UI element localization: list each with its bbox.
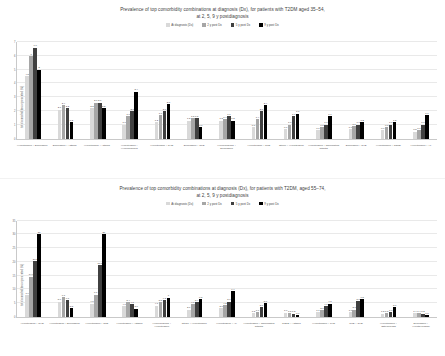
bar-value-label: 0.6 <box>316 127 319 130</box>
bar[interactable]: 0.8 <box>199 127 203 138</box>
bar[interactable]: 3.4 <box>134 92 138 139</box>
legend-item-5y-bottom[interactable]: 5 y post Dx <box>231 202 250 206</box>
bar-value-label: 2.7 <box>187 306 190 309</box>
legend-item-dx[interactable]: At diagnosis (Dx) <box>166 23 193 27</box>
x-axis-label: Hypertension + Depression <box>16 142 48 174</box>
bar-value-label: 2.6 <box>98 99 101 102</box>
legend-item-9y-bottom[interactable]: 9 y post Dx <box>259 202 278 206</box>
legend-item-2y-bottom[interactable]: 2 y post Dx <box>202 202 221 206</box>
x-axis-label: Hypertension + Asthma <box>81 142 113 174</box>
x-axis-label: Hypertension + PVD <box>308 320 340 352</box>
bar-value-label: 5 <box>38 66 39 69</box>
bar[interactable]: 4.8 <box>328 304 332 317</box>
bar-value-label: 2.2 <box>66 105 69 108</box>
x-axis-label: Depression + CKD <box>178 142 210 174</box>
bar[interactable]: 1.7 <box>425 115 429 138</box>
bar-value-label: 1.2 <box>361 119 364 122</box>
chart-panel-top: Prevalence of top comorbidity combinatio… <box>0 0 445 178</box>
bar[interactable]: 6.5 <box>360 299 364 317</box>
bar[interactable]: 2.5 <box>167 104 171 138</box>
bar[interactable]: 3.7 <box>393 307 397 317</box>
bar-group: 1.41.41.20.8 <box>405 221 437 318</box>
bar-group: 4.566.65 <box>17 42 49 139</box>
bar-group: 1.21.72.02.5 <box>146 42 178 139</box>
bar[interactable]: 3.0 <box>134 309 138 317</box>
x-axis-label: Hypertension + COPD <box>372 142 404 174</box>
bar[interactable]: 1.8 <box>296 114 300 139</box>
bar-value-label: 1.2 <box>381 310 384 313</box>
x-axis-labels-bottom: Hypertension + CHDHypertension + Depress… <box>16 320 437 352</box>
bar-group: 1.72.75.86.5 <box>340 221 372 318</box>
bar[interactable]: 5 <box>37 70 41 139</box>
bar[interactable]: 1.6 <box>328 116 332 138</box>
x-axis-label: CKD + CHD <box>340 320 372 352</box>
x-axis-label: Hypertension + Hyperlipidemia <box>113 142 145 174</box>
bar[interactable]: 1.3 <box>231 121 235 139</box>
bar-value-label: 3.0 <box>134 305 137 308</box>
legend-item-dx-bottom[interactable]: At diagnosis (Dx) <box>166 202 193 206</box>
x-axis-label: Hypertension + CHD <box>16 320 48 352</box>
bar-group: 2.12.42.21.2 <box>49 42 81 139</box>
bar[interactable]: 2.2 <box>102 108 106 138</box>
y-axis-tick: 15 <box>13 274 16 277</box>
plot-area-top: 012345674.566.652.12.42.21.22.22.62.62.2… <box>16 42 437 140</box>
x-axis-label: Hypertension + Rheumatoid arthritis <box>243 320 275 352</box>
bar-value-label: 1.7 <box>349 309 352 312</box>
chart-title-top: Prevalence of top comorbidity combinatio… <box>0 0 445 20</box>
chart-title-bottom-line2: at 2, 5, 9 y postdiagnosis <box>0 192 445 199</box>
chart-title-top-line2: at 2, 5, 9 y postdiagnosis <box>0 13 445 20</box>
bar-group: 7.914.620.230 <box>17 221 49 318</box>
bar-value-label: 4.7 <box>130 301 133 304</box>
bar-group: 3.14.25.69.4 <box>211 221 243 318</box>
bar[interactable]: 1.2 <box>393 122 397 139</box>
bar-value-label: 1.6 <box>328 113 331 116</box>
figure-page: Prevalence of top comorbidity combinatio… <box>0 0 445 356</box>
bar-value-label: 2.2 <box>102 105 105 108</box>
bar[interactable]: 0.6 <box>296 315 300 317</box>
bar-value-label: 2.4 <box>62 102 65 105</box>
legend-item-9y[interactable]: 9 y post Dx <box>259 23 278 27</box>
plot-wrap-bottom: total comorbidities represented (%) 0510… <box>0 219 441 353</box>
x-axis-label: Hypertension + CKD <box>81 320 113 352</box>
bar-value-label: 1.0 <box>288 121 291 124</box>
y-axis-tick: 2 <box>14 109 15 112</box>
bar[interactable]: 0.8 <box>425 315 429 317</box>
bar[interactable]: 6.5 <box>199 299 203 317</box>
bar[interactable]: 5.0 <box>264 303 268 317</box>
bar[interactable]: 3.3 <box>70 308 74 317</box>
bar[interactable]: 2.4 <box>264 105 268 138</box>
bar-value-label: 2.2 <box>90 105 93 108</box>
chart-title-bottom: Prevalence of top comorbidity combinatio… <box>0 179 445 199</box>
bar[interactable]: 1.2 <box>360 122 364 139</box>
bar-value-label: 1.2 <box>421 310 424 313</box>
bar-value-label: 0.5 <box>413 128 416 131</box>
bar-value-label: 0.9 <box>353 123 356 126</box>
bar[interactable]: 30 <box>102 234 106 317</box>
bar-value-label: 7.1 <box>62 294 65 297</box>
legend-label-dx: At diagnosis (Dx) <box>171 23 193 27</box>
bar-value-label: 1.6 <box>227 113 230 116</box>
x-axis-label: Hypertension + AF <box>405 142 437 174</box>
y-axis-tick: 0 <box>14 137 15 140</box>
chart-title-top-line1: Prevalence of top comorbidity combinatio… <box>120 7 325 12</box>
bar-value-label: 1.0 <box>357 121 360 124</box>
bar[interactable]: 30 <box>37 234 41 317</box>
bar-value-label: 6 <box>30 53 31 56</box>
legend-swatch-dx <box>166 23 170 27</box>
x-axis-label: Hyperlipidemia + Hypertension <box>146 320 178 352</box>
bar-value-label: 1.3 <box>231 117 234 120</box>
legend-swatch-5y-bottom <box>231 202 235 206</box>
bar-value-label: 5.6 <box>58 298 61 301</box>
x-axis-label: Hyperlipidemia + Depression <box>210 142 242 174</box>
bar-group: 0.70.91.01.2 <box>340 42 372 139</box>
legend-swatch-9y <box>259 23 263 27</box>
legend-item-5y[interactable]: 5 y post Dx <box>231 23 250 27</box>
bar-value-label: 7.9 <box>26 292 29 295</box>
bar-value-label: 5.4 <box>126 299 129 302</box>
bar[interactable]: 1.2 <box>70 122 74 139</box>
bar[interactable]: 7 <box>167 298 171 317</box>
bar[interactable]: 9.4 <box>231 291 235 317</box>
bar-value-label: 0.8 <box>320 124 323 127</box>
legend-item-2y[interactable]: 2 y post Dx <box>202 23 221 27</box>
bar-group: 4.88.118.830 <box>82 221 114 318</box>
